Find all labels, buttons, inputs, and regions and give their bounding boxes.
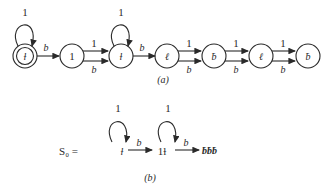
edge-label-s5-s6-bottom: b [281, 64, 286, 75]
edge-label-b2: b [184, 137, 189, 148]
state-label-s2: ƚ [120, 51, 123, 62]
state-label-s1: 1 [69, 50, 75, 62]
edge-label-s1-s2-top: 1 [91, 37, 97, 49]
state-label-s0: ƚ [24, 51, 27, 62]
caption-b: (b) [144, 172, 156, 184]
loop-label-s0: 1 [22, 6, 28, 18]
node-b2: 1ƚ [158, 145, 167, 157]
edge-label-s1-s2-bottom: b [92, 64, 97, 75]
loop-label-s2: 1 [118, 6, 124, 18]
edge-label-s4-s5-bottom: b [234, 64, 239, 75]
self-loop-b1 [109, 122, 126, 142]
edge-label-s3-s4-top: 1 [186, 37, 192, 49]
state-label-s3: ℓ [165, 51, 169, 62]
self-loop-b2 [158, 122, 175, 142]
edge-label-s0-s1: b [44, 42, 49, 53]
edge-label-s4-s5-top: 1 [233, 37, 239, 49]
edge-label-s2-s3: b [140, 42, 145, 53]
automaton-figure: ƚ 1 ƚ ℓ ƀ ℓ ƀ 1 b 1 b 1 b 1 b 1 b 1 b (a… [0, 0, 327, 186]
tail-label-b: ƀƀƀ [202, 145, 217, 156]
edge-label-b1: b [137, 137, 142, 148]
state-label-s5: ℓ [259, 51, 263, 62]
s0-prefix: S₀ = [59, 145, 78, 157]
loop-label-b1: 1 [115, 102, 121, 114]
state-label-s4: ƀ [212, 51, 217, 62]
node-b1: ƚ [121, 146, 124, 157]
loop-label-b2: 1 [165, 102, 171, 114]
caption-a: (a) [157, 74, 169, 86]
self-loop-s2 [111, 25, 129, 46]
self-loop-s0 [15, 25, 33, 46]
edge-label-s5-s6-top: 1 [280, 37, 286, 49]
edge-label-s3-s4-bottom: b [187, 64, 192, 75]
state-label-s6: ƀ [306, 51, 311, 62]
